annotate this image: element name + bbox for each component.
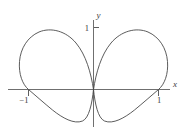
x-tick-label-1: 1 [157,95,161,105]
x-axis-label: x [172,79,177,89]
polar-curve-figure: y x 1 −1 1 [0,0,188,131]
y-axis-label: y [96,10,101,20]
y-tick-label-1: 1 [85,23,89,33]
x-tick-label-neg1: −1 [19,95,28,105]
right-lobe-curve [94,30,168,122]
left-lobe-curve [19,30,93,122]
plot-canvas: y x 1 −1 1 [0,0,188,131]
